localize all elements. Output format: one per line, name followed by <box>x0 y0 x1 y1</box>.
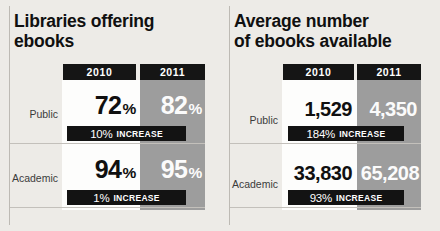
panel-left-academic-2011-number: 95 <box>161 157 188 182</box>
panel-left-row-label-academic: Academic <box>2 172 58 184</box>
panel-right-title-line1: Average number <box>234 11 369 31</box>
panel-right-public-increase-value: 184% <box>307 128 336 140</box>
panel-left-public-2010-number: 72 <box>95 93 122 118</box>
panel-left-row-label-public: Public <box>6 108 58 120</box>
panel-left-academic-2010-number: 94 <box>95 157 122 182</box>
panel-right-academic-increase-word: INCREASE <box>336 193 382 203</box>
panel-right-public-2010-number: 1,529 <box>304 99 352 119</box>
panel-right-academic-increase-badge: 93% INCREASE <box>288 190 404 205</box>
panel-right-academic-increase-value: 93% <box>310 192 332 204</box>
panel-right-row-label-public: Public <box>226 114 278 126</box>
panel-left-academic-2011-value: 95% <box>144 157 202 182</box>
panel-left-public-increase-value: 10% <box>90 128 112 140</box>
panel-right-public-2011-value: 4,350 <box>359 99 417 119</box>
panel-left-title-line1: Libraries offering <box>14 11 154 31</box>
panel-left-academic-increase-word: INCREASE <box>113 193 159 203</box>
panel-libraries-offering-ebooks: Libraries offering ebooks 2010 2011 Publ… <box>0 0 220 231</box>
panel-left-header-2011: 2011 <box>140 64 205 80</box>
panel-left-public-2010-value: 72% <box>70 93 136 118</box>
panel-left-academic-2010-unit: % <box>123 165 136 181</box>
panel-left-academic-2010-value: 94% <box>70 157 136 182</box>
panel-right-public-increase-word: INCREASE <box>339 129 385 139</box>
panel-left-public-2010-unit: % <box>123 101 136 117</box>
panel-right-public-increase-badge: 184% INCREASE <box>288 126 404 141</box>
panel-left-academic-2011-unit: % <box>189 165 202 181</box>
panel-left-public-2011-number: 82 <box>161 93 188 118</box>
panel-right-title-line2: of ebooks available <box>234 31 392 51</box>
panel-right-academic-2010-number: 33,830 <box>294 163 352 183</box>
panel-right-public-2010-value: 1,529 <box>286 99 352 119</box>
panel-right-title: Average number of ebooks available <box>234 11 430 51</box>
panel-left-academic-increase-value: 1% <box>93 192 109 204</box>
panel-left-public-increase-word: INCREASE <box>117 129 163 139</box>
panel-right-header-2011: 2011 <box>357 64 421 80</box>
panel-left-header-2010: 2010 <box>63 64 136 80</box>
panel-right-row-divider-mid <box>230 143 421 144</box>
panel-right-row-label-academic: Academic <box>222 178 278 190</box>
panel-left-row-divider-mid <box>10 143 205 144</box>
panel-left-public-increase-badge: 10% INCREASE <box>67 126 186 141</box>
panel-right-academic-2011-number: 65,208 <box>361 163 419 183</box>
panel-left-title: Libraries offering ebooks <box>14 11 210 51</box>
panel-right-academic-2011-value: 65,208 <box>357 163 419 183</box>
panel-right-row-divider-bottom <box>230 207 421 208</box>
panel-left-public-2011-value: 82% <box>144 93 202 118</box>
panel-left-row-divider-bottom <box>10 207 205 208</box>
panel-right-academic-2010-value: 33,830 <box>282 163 352 183</box>
ebooks-infographic: Libraries offering ebooks 2010 2011 Publ… <box>0 0 440 231</box>
panel-right-public-2011-number: 4,350 <box>369 99 417 119</box>
panel-left-title-line2: ebooks <box>14 31 74 51</box>
panel-left-public-2011-unit: % <box>189 101 202 117</box>
panel-right-header-2010: 2010 <box>283 64 354 80</box>
panel-left-academic-increase-badge: 1% INCREASE <box>67 190 186 205</box>
